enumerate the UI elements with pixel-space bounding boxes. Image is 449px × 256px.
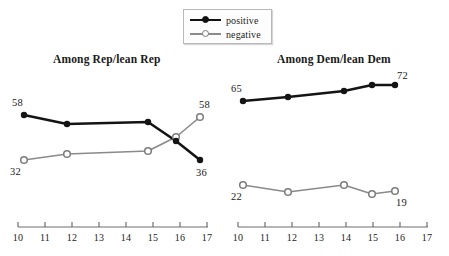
right-negative-markers [240, 182, 399, 198]
axis-tick-left-17: 17 [202, 232, 213, 243]
chart-figure: positive negative Among Rep/lean Rep Amo… [0, 0, 449, 256]
data-label-left-negative-end: 58 [199, 99, 210, 110]
axis-tick-right-11: 11 [260, 232, 270, 243]
axis-tick-right-14: 14 [341, 232, 352, 243]
axis-tick-right-13: 13 [314, 232, 325, 243]
axis-tick-right-16: 16 [395, 232, 406, 243]
axis-tick-left-15: 15 [148, 232, 159, 243]
left-axis [18, 222, 208, 227]
axis-tick-right-12: 12 [287, 232, 298, 243]
axis-tick-left-10: 10 [13, 232, 24, 243]
data-label-right-negative-start: 22 [231, 191, 242, 202]
right-axis [238, 222, 428, 227]
axis-tick-left-13: 13 [94, 232, 105, 243]
data-label-left-positive-start: 58 [12, 97, 23, 108]
axis-tick-left-11: 11 [40, 232, 50, 243]
axis-tick-right-10: 10 [233, 232, 244, 243]
data-label-right-positive-end: 72 [397, 70, 408, 81]
axis-tick-right-15: 15 [368, 232, 379, 243]
plot-area [0, 0, 449, 256]
data-label-right-negative-end: 19 [396, 197, 407, 208]
data-label-left-negative-start: 32 [10, 166, 21, 177]
axis-tick-left-14: 14 [121, 232, 132, 243]
axis-tick-left-12: 12 [67, 232, 78, 243]
data-label-right-positive-start: 65 [231, 83, 242, 94]
axis-tick-left-16: 16 [175, 232, 186, 243]
data-label-left-positive-end: 36 [196, 167, 207, 178]
axis-tick-right-17: 17 [422, 232, 433, 243]
